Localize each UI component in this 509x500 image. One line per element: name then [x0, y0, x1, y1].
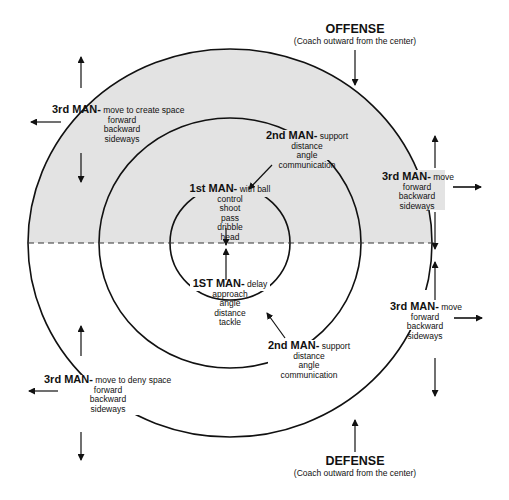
defense-heading: DEFENSE (Coach outward from the center) [290, 454, 420, 478]
defense-first-man-label: 1ST MAN- delay approach angle distance t… [180, 279, 280, 328]
defense-title: DEFENSE [290, 454, 420, 468]
defense-third-man-left-label: 3rd MAN- move to deny space forward back… [44, 375, 171, 414]
offense-second-man-label: 2nd MAN- support distance angle communic… [262, 131, 352, 170]
concentric-circles-diagram [0, 0, 509, 500]
defense-subtitle: (Coach outward from the center) [290, 468, 420, 478]
offense-subtitle: (Coach outward from the center) [290, 36, 420, 46]
offense-first-man-label: 1st MAN- with ball control shoot pass dr… [178, 184, 282, 242]
offense-title: OFFENSE [290, 22, 420, 36]
defense-third-man-right-label: 3rd MAN- move forward backward sideways [390, 302, 460, 341]
defense-second-man-label: 2nd MAN- support distance angle communic… [264, 341, 354, 380]
offense-third-man-right-label: 3rd MAN- move forward backward sideways [382, 172, 452, 211]
offense-third-man-left-label: 3rd MAN- move to create space forward ba… [52, 105, 185, 144]
offense-heading: OFFENSE (Coach outward from the center) [290, 22, 420, 46]
